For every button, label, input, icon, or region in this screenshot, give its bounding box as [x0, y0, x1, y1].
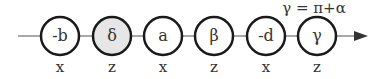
node-label: -d — [258, 26, 274, 45]
axis-label: z — [313, 58, 321, 76]
node-2: a x — [144, 17, 182, 76]
node-5: γ z — [298, 17, 336, 76]
node-label: -b — [52, 26, 68, 45]
node-1: δ z — [93, 17, 131, 76]
node-label: γ — [312, 26, 322, 45]
node-3: β z — [195, 17, 233, 76]
axis-label: x — [56, 58, 65, 76]
node-label: β — [209, 26, 218, 45]
node-label: δ — [107, 26, 117, 45]
axis-label: z — [108, 58, 116, 76]
rotation-sequence-diagram: -b x δ z a x β z -d x γ z γ = π+α — [0, 0, 386, 79]
axis-label: z — [210, 58, 218, 76]
arrow-head-icon — [354, 31, 368, 41]
node-label: a — [158, 26, 168, 45]
axis-label: x — [262, 58, 271, 76]
node-0: -b x — [41, 17, 79, 76]
axis-label: x — [159, 58, 168, 76]
gamma-annotation: γ = π+α — [282, 0, 346, 17]
node-4: -d x — [247, 17, 285, 76]
